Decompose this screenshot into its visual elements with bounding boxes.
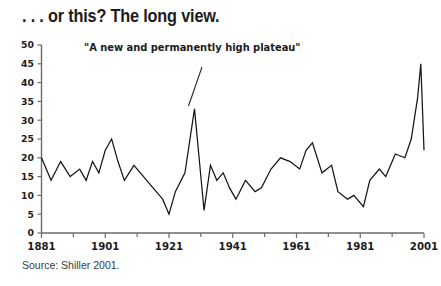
x-tick-marks [42,233,425,238]
y-tick-label: 5 [28,209,34,220]
x-axis: 1881190119211941196119812001 [27,233,438,252]
y-tick-label: 0 [28,227,35,238]
x-tick-label: 1881 [27,241,55,252]
y-tick-label: 20 [21,152,34,163]
y-tick-label: 40 [21,77,34,88]
y-tick-label: 45 [21,58,34,69]
x-tick-label: 1941 [219,241,247,252]
y-tick-label: 25 [21,133,34,144]
y-tick-label: 35 [21,96,34,107]
y-tick-label: 10 [21,190,34,201]
line-chart: 05101520253035404550 1881190119211941196… [0,0,441,286]
source-note: Source: Shiller 2001. [22,259,119,271]
y-tick-label: 50 [21,39,34,50]
y-tick-label: 30 [21,115,34,126]
y-axis: 05101520253035404550 [21,39,41,238]
y-tick-labels: 05101520253035404550 [21,39,34,238]
x-tick-label: 1901 [91,241,119,252]
x-tick-label: 2001 [410,241,438,252]
price-earnings-series [42,64,425,214]
x-tick-label: 1981 [346,241,374,252]
annotation-leader-line [189,67,203,106]
y-tick-label: 15 [21,171,34,182]
figure: . . . or this? The long view. "A new and… [0,0,441,286]
x-tick-label: 1921 [155,241,183,252]
x-tick-labels: 1881190119211941196119812001 [27,241,438,252]
x-tick-label: 1961 [282,241,310,252]
